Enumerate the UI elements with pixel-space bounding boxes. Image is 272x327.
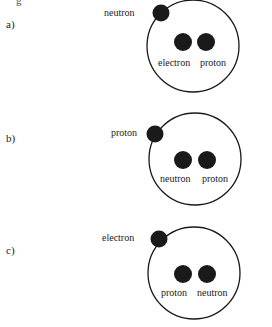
inner-right-label: proton bbox=[200, 57, 226, 68]
atom-diagram-b[interactable]: proton neutron proton bbox=[111, 113, 241, 205]
outer-particle-label: neutron bbox=[104, 7, 135, 18]
inner-right-label: neutron bbox=[197, 287, 228, 298]
outer-particle-dot bbox=[147, 126, 164, 143]
inner-right-particle-dot bbox=[197, 33, 215, 51]
inner-left-particle-dot bbox=[174, 265, 192, 283]
inner-right-particle-dot bbox=[198, 265, 216, 283]
inner-left-particle-dot bbox=[174, 151, 192, 169]
outer-particle-dot bbox=[153, 5, 170, 22]
inner-left-label: proton bbox=[161, 287, 187, 298]
atom-diagram-a[interactable]: neutron electron proton bbox=[104, 0, 239, 92]
atom-diagrams: neutron electron proton proton neutron p… bbox=[0, 0, 272, 327]
outer-particle-label: proton bbox=[111, 127, 137, 138]
inner-left-label: neutron bbox=[160, 173, 191, 184]
outer-particle-dot bbox=[151, 231, 168, 248]
outer-particle-label: electron bbox=[102, 232, 134, 243]
inner-right-particle-dot bbox=[198, 151, 216, 169]
inner-right-label: proton bbox=[202, 173, 228, 184]
inner-left-label: electron bbox=[158, 57, 190, 68]
atom-diagram-c[interactable]: electron proton neutron bbox=[102, 227, 240, 319]
inner-left-particle-dot bbox=[174, 33, 192, 51]
atom-outline bbox=[149, 113, 241, 205]
